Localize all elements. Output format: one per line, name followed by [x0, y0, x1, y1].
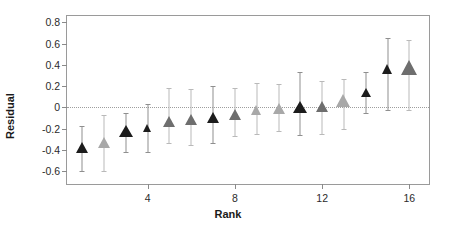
x-axis-tick-label: 16 [404, 192, 416, 204]
y-axis-tick [62, 86, 67, 87]
y-axis-tick-label: -0.4 [42, 144, 60, 156]
error-bar-cap [102, 171, 107, 172]
error-bar-cap [232, 136, 237, 137]
error-bar-cap [123, 113, 128, 114]
y-axis-tick [62, 150, 67, 151]
chart-figure: Residual Rank 0.80.60.40.20-0.2-0.4-0.64… [0, 0, 456, 232]
y-axis-tick [62, 65, 67, 66]
x-axis-tick [409, 184, 410, 189]
y-axis-tick-label: 0.4 [45, 59, 60, 71]
error-bar-cap [320, 81, 325, 82]
zero-reference-line [67, 107, 429, 108]
data-point-triangle [207, 112, 219, 123]
error-bar-cap [145, 152, 150, 153]
data-point-triangle [382, 64, 392, 74]
x-axis-tick [322, 184, 323, 189]
error-bar-cap [298, 135, 303, 136]
data-point-triangle [76, 142, 88, 153]
y-axis-tick [62, 44, 67, 45]
data-point-triangle [316, 101, 328, 112]
x-axis-title: Rank [0, 208, 456, 220]
error-bar-cap [232, 88, 237, 89]
x-axis-tick-label: 12 [316, 192, 328, 204]
y-axis-tick-label: -0.6 [42, 165, 60, 177]
error-bar-cap [254, 134, 259, 135]
data-point-triangle [143, 124, 151, 132]
error-bar-cap [298, 72, 303, 73]
error-bar-cap [341, 129, 346, 130]
error-bar-cap [276, 84, 281, 85]
error-bar-cap [363, 113, 368, 114]
error-bar-cap [123, 152, 128, 153]
y-axis-tick-label: -0.2 [42, 123, 60, 135]
error-bar-cap [80, 126, 85, 127]
y-axis-tick-label: 0 [54, 101, 60, 113]
error-bar-cap [189, 89, 194, 90]
error-bar-cap [407, 110, 412, 111]
error-bar-cap [167, 143, 172, 144]
error-bar-cap [320, 134, 325, 135]
data-point-triangle [185, 114, 197, 125]
y-axis-tick-label: 0.8 [45, 16, 60, 28]
error-bar-cap [80, 171, 85, 172]
data-point-triangle [229, 109, 241, 120]
error-bar-cap [407, 40, 412, 41]
y-axis-tick-label: 0.6 [45, 38, 60, 50]
y-axis-title: Residual [2, 0, 18, 232]
error-bar-cap [254, 83, 259, 84]
x-axis-tick-label: 8 [232, 192, 238, 204]
y-axis-tick [62, 22, 67, 23]
error-bar-cap [363, 72, 368, 73]
data-point-triangle [273, 103, 285, 114]
data-point-triangle [251, 105, 261, 115]
y-axis-tick [62, 171, 67, 172]
data-point-triangle [98, 137, 110, 148]
error-bar-cap [102, 115, 107, 116]
error-bar-cap [211, 86, 216, 87]
x-axis-tick-label: 4 [145, 192, 151, 204]
data-point-triangle [119, 125, 133, 137]
data-point-triangle [401, 60, 417, 75]
error-bar-cap [276, 131, 281, 132]
plot-area: 0.80.60.40.20-0.2-0.4-0.6481216 [66, 15, 430, 185]
y-axis-tick-label: 0.2 [45, 80, 60, 92]
y-axis-tick [62, 129, 67, 130]
x-axis-tick [148, 184, 149, 189]
error-bar-cap [211, 143, 216, 144]
data-point-triangle [293, 101, 307, 113]
error-bar-cap [167, 88, 172, 89]
error-bar-cap [385, 38, 390, 39]
error-bar-cap [341, 79, 346, 80]
data-point-triangle [361, 88, 371, 97]
error-bar-cap [385, 110, 390, 111]
error-bar-cap [145, 104, 150, 105]
data-point-triangle [336, 94, 350, 107]
data-point-triangle [163, 116, 175, 127]
error-bar-cap [189, 145, 194, 146]
x-axis-tick [235, 184, 236, 189]
